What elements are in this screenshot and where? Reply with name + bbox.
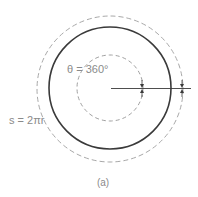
theta-label: θ = 360° xyxy=(67,63,108,75)
figure-caption: (a) xyxy=(97,177,109,188)
circle-diagram: θ = 360° s = 2πr (a) xyxy=(0,0,198,197)
outer-dashed-circle xyxy=(37,16,183,162)
solid-circle xyxy=(49,27,171,149)
arc-length-label: s = 2πr xyxy=(9,114,45,126)
